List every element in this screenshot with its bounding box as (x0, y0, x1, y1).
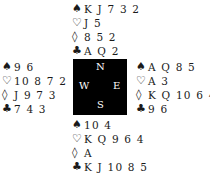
heart-icon: ♡ (136, 74, 148, 88)
south-hearts: ♡K Q 9 6 4 (72, 132, 148, 146)
east-clubs: ♣9 6 (136, 102, 210, 116)
south-spades: ♠10 4 (72, 118, 148, 132)
compass-east: E (113, 80, 120, 91)
west-hearts: ♡10 8 7 2 (2, 74, 67, 88)
south-diamonds: ◊A (72, 146, 148, 160)
south-clubs: ♣K J 10 8 5 (72, 160, 148, 174)
north-hand: ♠K J 7 3 2 ♡J 5 ◊8 5 2 ♣A Q 2 (72, 2, 140, 58)
club-icon: ♣ (136, 102, 148, 116)
east-hand: ♠A Q 8 5 ♡A 3 ◊K Q 10 6 4 ♣9 6 (136, 60, 210, 116)
heart-icon: ♡ (72, 16, 84, 30)
club-icon: ♣ (72, 44, 84, 58)
diamond-icon: ◊ (136, 88, 148, 102)
north-clubs: ♣A Q 2 (72, 44, 140, 58)
club-icon: ♣ (2, 102, 14, 116)
compass-table: N W E S (73, 59, 127, 115)
diamond-icon: ◊ (2, 88, 14, 102)
compass-west: W (79, 80, 89, 91)
north-hearts: ♡J 5 (72, 16, 140, 30)
spade-icon: ♠ (2, 60, 14, 74)
spade-icon: ♠ (72, 118, 84, 132)
heart-icon: ♡ (2, 74, 14, 88)
spade-icon: ♠ (136, 60, 148, 74)
compass-north: N (96, 61, 105, 72)
east-diamonds: ◊K Q 10 6 4 (136, 88, 210, 102)
diamond-icon: ◊ (72, 30, 84, 44)
club-icon: ♣ (72, 160, 84, 174)
east-spades: ♠A Q 8 5 (136, 60, 210, 74)
west-hand: ♠9 6 ♡10 8 7 2 ◊J 9 7 3 ♣7 4 3 (2, 60, 67, 116)
compass-south: S (97, 99, 104, 110)
west-clubs: ♣7 4 3 (2, 102, 67, 116)
north-spades: ♠K J 7 3 2 (72, 2, 140, 16)
spade-icon: ♠ (72, 2, 84, 16)
heart-icon: ♡ (72, 132, 84, 146)
south-hand: ♠10 4 ♡K Q 9 6 4 ◊A ♣K J 10 8 5 (72, 118, 148, 174)
west-spades: ♠9 6 (2, 60, 67, 74)
north-diamonds: ◊8 5 2 (72, 30, 140, 44)
east-hearts: ♡A 3 (136, 74, 210, 88)
west-diamonds: ◊J 9 7 3 (2, 88, 67, 102)
diamond-icon: ◊ (72, 146, 84, 160)
